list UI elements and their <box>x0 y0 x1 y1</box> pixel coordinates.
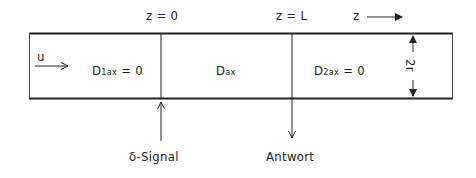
section2-label: Dax <box>216 64 236 77</box>
velocity-label: u <box>37 50 45 63</box>
z-axis-label: z <box>353 9 359 22</box>
tube-diagram: z = 0 z = L z u D1ax = 0 Dax D2ax = 0 2r… <box>0 0 476 178</box>
zL-label: z = L <box>276 9 307 22</box>
section3-label: D2ax = 0 <box>314 64 365 77</box>
z0-label: z = 0 <box>146 9 178 22</box>
section1-label: D1ax = 0 <box>92 64 143 77</box>
diameter-label: 2r <box>404 59 417 72</box>
diagram-lines <box>0 0 476 178</box>
input-label: δ-Signal <box>129 150 179 163</box>
output-label: Antwort <box>266 150 314 163</box>
